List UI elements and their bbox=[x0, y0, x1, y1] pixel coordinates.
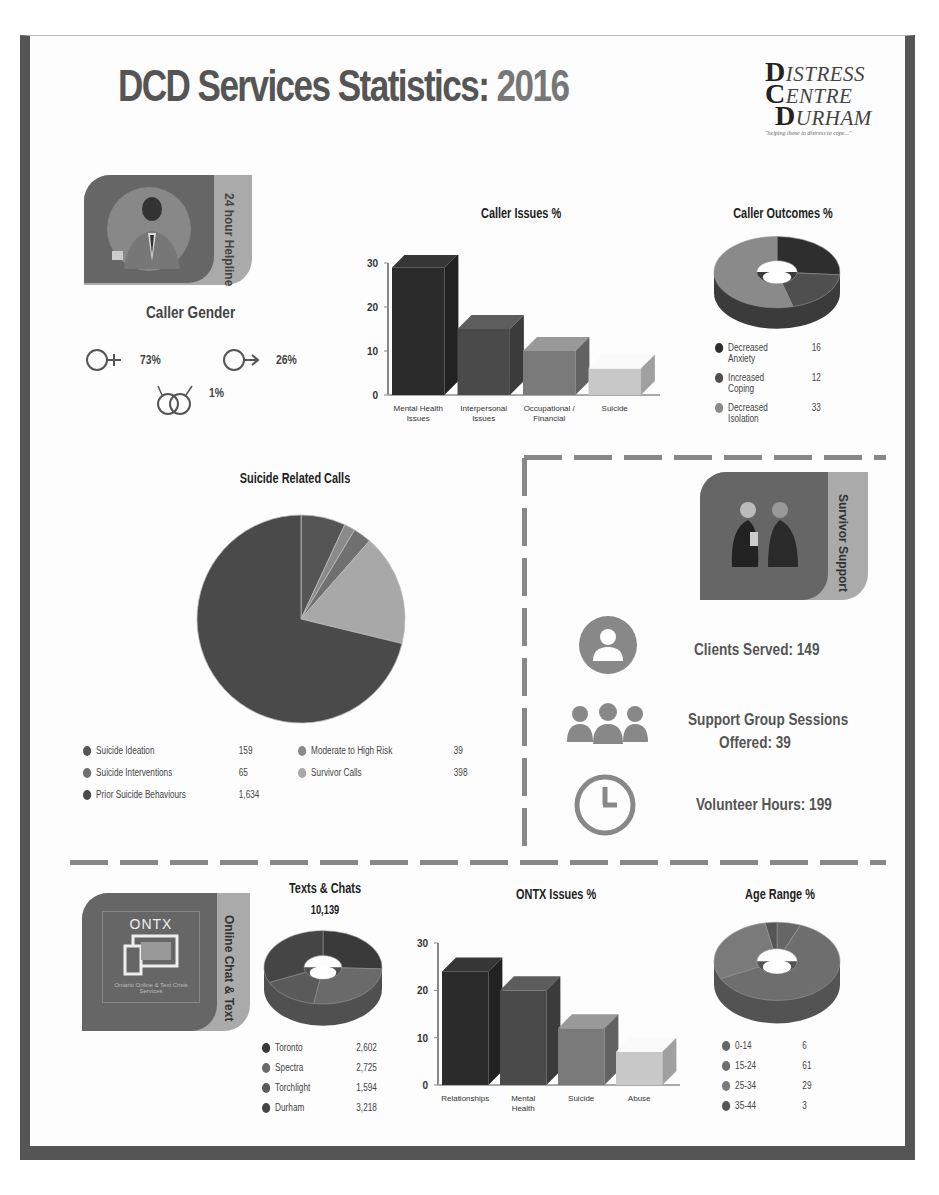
legend-swatch bbox=[262, 1083, 270, 1093]
divider-horizontal bbox=[524, 455, 886, 460]
badge-image bbox=[700, 472, 828, 600]
svg-text:10: 10 bbox=[417, 1033, 429, 1044]
svg-text:20: 20 bbox=[367, 302, 379, 313]
svg-text:Issues: Issues bbox=[472, 414, 495, 423]
caller-issues-title: Caller Issues % bbox=[481, 205, 559, 221]
ontx-logo: ONTX Ontario Online & Text Crisis Servic… bbox=[102, 911, 200, 1003]
suicide-calls-pie bbox=[195, 513, 407, 725]
bar bbox=[500, 976, 560, 1085]
legend-swatch bbox=[262, 1063, 270, 1073]
age-range-title: Age Range % bbox=[741, 886, 819, 902]
svg-text:30: 30 bbox=[417, 938, 429, 949]
svg-text:Interpersonal: Interpersonal bbox=[460, 404, 507, 413]
title-year: 2016 bbox=[496, 60, 568, 111]
divider-horizontal bbox=[70, 860, 886, 865]
svg-text:Abuse: Abuse bbox=[628, 1094, 651, 1103]
legend-swatch bbox=[722, 1101, 730, 1111]
ontx-issues-chart: 3020100RelationshipsMentalHealthSuicideA… bbox=[410, 935, 690, 1125]
svg-text:Suicide: Suicide bbox=[568, 1094, 595, 1103]
caller-person-icon bbox=[84, 175, 214, 283]
badge-image: ONTX Ontario Online & Text Crisis Servic… bbox=[82, 893, 217, 1031]
clients-served-stat: Clients Served: 149 bbox=[694, 640, 806, 660]
caller-outcomes-title: Caller Outcomes % bbox=[733, 205, 827, 221]
legend-label: 25-34 bbox=[735, 1080, 756, 1091]
other-gender-percent: 1% bbox=[209, 385, 224, 400]
ontx-logo-subtext: Ontario Online & Text Crisis Services bbox=[103, 982, 199, 994]
caller-outcomes-chart bbox=[712, 228, 842, 333]
legend-value: 3 bbox=[802, 1100, 807, 1111]
svg-text:20: 20 bbox=[417, 985, 429, 996]
legend-swatch bbox=[715, 373, 723, 383]
svg-text:Mental: Mental bbox=[511, 1094, 535, 1103]
svg-text:0: 0 bbox=[422, 1080, 428, 1091]
group-sessions-value: Offered: 39 bbox=[711, 733, 799, 753]
bar bbox=[558, 1014, 618, 1085]
legend-item: 25-3429 bbox=[722, 1080, 756, 1091]
texts-chats-chart bbox=[262, 922, 384, 1030]
legend-item: 0-146 bbox=[722, 1040, 752, 1051]
legend-value: 12 bbox=[812, 372, 821, 383]
legend-label: Torchlight bbox=[275, 1082, 310, 1093]
svg-text:Issues: Issues bbox=[407, 414, 430, 423]
legend-item: Suicide Interventions65 bbox=[83, 767, 172, 778]
legend-item: Decreased Anxiety16 bbox=[715, 342, 777, 364]
legend-label: Prior Suicide Behaviours bbox=[96, 789, 186, 800]
bar bbox=[523, 337, 589, 395]
ontx-logo-text: ONTX bbox=[103, 916, 199, 932]
texts-chats-title: Texts & Chats bbox=[286, 880, 364, 896]
title-text: DCD Services Statistics: bbox=[118, 60, 488, 111]
legend-value: 6 bbox=[802, 1040, 807, 1051]
support-group-icon bbox=[700, 472, 828, 600]
legend-swatch bbox=[83, 790, 91, 800]
badge-image bbox=[84, 175, 214, 283]
legend-label: 15-24 bbox=[735, 1060, 756, 1071]
suicide-calls-legend: Suicide Ideation159Suicide Interventions… bbox=[83, 745, 503, 825]
male-percent: 26% bbox=[276, 352, 297, 367]
legend-value: 65 bbox=[239, 767, 248, 778]
badge-label: Survivor Support bbox=[836, 494, 850, 592]
ontx-badge: ONTX Ontario Online & Text Crisis Servic… bbox=[82, 893, 250, 1031]
page-title: DCD Services Statistics: 2016 bbox=[118, 60, 568, 112]
helpline-badge: 24 hour Helpline bbox=[84, 175, 252, 285]
legend-label: Toronto bbox=[275, 1042, 302, 1053]
legend-label: 0-14 bbox=[735, 1040, 751, 1051]
donut-slice bbox=[777, 236, 840, 274]
caller-gender-title: Caller Gender bbox=[146, 303, 235, 323]
legend-label: Spectra bbox=[275, 1062, 303, 1073]
legend-swatch bbox=[715, 403, 723, 413]
legend-label: Suicide Interventions bbox=[96, 767, 172, 778]
legend-swatch bbox=[722, 1041, 730, 1051]
legend-label: Moderate to High Risk bbox=[311, 745, 392, 756]
group-people-icon bbox=[563, 700, 653, 745]
bar bbox=[392, 255, 458, 395]
legend-item: 35-443 bbox=[722, 1100, 756, 1111]
divider-vertical bbox=[522, 458, 527, 856]
legend-label: Durham bbox=[275, 1102, 304, 1113]
svg-text:Mental Health: Mental Health bbox=[394, 404, 443, 413]
devices-icon bbox=[103, 932, 199, 978]
legend-item: Torchlight1,594 bbox=[262, 1082, 310, 1093]
volunteer-hours-stat: Volunteer Hours: 199 bbox=[696, 795, 824, 815]
legend-item: Moderate to High Risk39 bbox=[298, 745, 392, 756]
legend-swatch bbox=[298, 768, 306, 778]
badge-label: 24 hour Helpline bbox=[222, 193, 236, 286]
logo-initial: D bbox=[775, 100, 796, 131]
legend-label: Decreased Anxiety bbox=[728, 342, 777, 364]
legend-item: 15-2461 bbox=[722, 1060, 756, 1071]
legend-swatch bbox=[262, 1103, 270, 1113]
legend-label: Survivor Calls bbox=[311, 767, 362, 778]
legend-value: 39 bbox=[454, 745, 463, 756]
legend-label: Decreased Isolation bbox=[728, 402, 777, 424]
svg-text:Suicide: Suicide bbox=[602, 404, 629, 413]
legend-item: Prior Suicide Behaviours1,634 bbox=[83, 789, 186, 800]
svg-text:Occupational /: Occupational / bbox=[524, 404, 576, 413]
svg-text:30: 30 bbox=[367, 258, 379, 269]
legend-value: 29 bbox=[802, 1080, 811, 1091]
legend-value: 2,602 bbox=[356, 1042, 377, 1053]
legend-swatch bbox=[262, 1043, 270, 1053]
distress-centre-logo: DISTRESS CENTRE DURHAM "helping those in… bbox=[765, 62, 895, 136]
legend-swatch bbox=[722, 1061, 730, 1071]
bar bbox=[442, 957, 502, 1085]
survivor-support-badge: Survivor Support bbox=[700, 472, 868, 600]
legend-value: 1,634 bbox=[239, 789, 260, 800]
